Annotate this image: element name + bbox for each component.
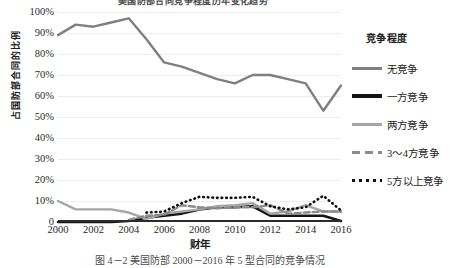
x-axis-line [58,220,341,222]
legend-swatch-icon [352,119,382,129]
y-axis-tick-label: 40% [14,133,54,143]
y-axis-tick-label: 30% [14,154,54,164]
y-axis-tick-label: 100% [14,7,54,17]
legend-item-label: 3～4方竞争 [387,145,439,160]
figure-caption: 图 4－2 美国防部 2000－2016 年 5 型合同的竞争情况 [40,252,380,268]
legend-item[interactable]: 两方竞争 [352,110,454,138]
legend-title: 竞争程度 [366,30,454,45]
series-lines [58,12,341,222]
legend-item[interactable]: 3～4方竞争 [352,138,454,166]
y-axis-tick-label: 60% [14,91,54,101]
chart-top-title: 美国防部合同竞争程度历年变化趋势 [48,0,338,6]
chart-legend: 竞争程度 无竞争一方竞争两方竞争3～4方竞争5方以上竞争 [352,30,454,194]
legend-items: 无竞争一方竞争两方竞争3～4方竞争5方以上竞争 [352,54,454,194]
legend-item-label: 一方竞争 [387,89,428,104]
legend-item[interactable]: 一方竞争 [352,82,454,110]
y-axis-tick-label: 20% [14,175,54,185]
series-line [58,18,341,110]
x-axis-tick-label: 2010 [215,224,255,235]
y-axis-tick-label: 80% [14,49,54,59]
x-axis-tick-label: 2002 [73,224,113,235]
x-axis-title: 财年 [58,236,341,251]
x-axis-tick-label: 2006 [144,224,184,235]
legend-item-label: 两方竞争 [387,117,428,132]
x-axis-tick-label: 2014 [286,224,326,235]
y-axis-tick-label: 10% [14,196,54,206]
y-axis-tick-label: 90% [14,28,54,38]
x-axis-tick-label: 2000 [38,224,78,235]
legend-item-label: 5方以上竞争 [387,173,443,188]
x-axis-tick-label: 2004 [109,224,149,235]
x-axis-tick-label: 2016 [321,224,361,235]
legend-swatch-icon [352,147,382,157]
y-axis-tick-label: 70% [14,70,54,80]
plot-area [58,12,341,222]
legend-swatch-icon [352,175,382,185]
legend-swatch-icon [352,63,382,73]
competition-line-chart: 美国防部合同竞争程度历年变化趋势 占国防部合同的比例 100%90%80%70%… [0,0,454,268]
x-axis-tick-label: 2012 [250,224,290,235]
legend-item[interactable]: 5方以上竞争 [352,166,454,194]
legend-item[interactable]: 无竞争 [352,54,454,82]
x-axis-tick-label: 2008 [180,224,220,235]
legend-swatch-icon [352,91,382,101]
legend-item-label: 无竞争 [387,61,418,76]
y-axis-tick-label: 50% [14,112,54,122]
